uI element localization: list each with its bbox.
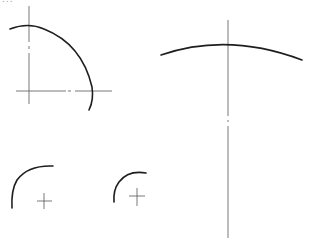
quarter-arc — [10, 26, 93, 111]
shallow-arc — [161, 45, 302, 60]
drawing-canvas — [0, 0, 319, 240]
small-arc-left — [12, 166, 53, 208]
small-arc-right — [114, 172, 146, 202]
figure-large-arc — [161, 20, 302, 238]
figure-small-arc-right — [114, 172, 146, 206]
figure-quarter-arc — [10, 6, 112, 110]
figure-small-arc-left — [12, 166, 53, 209]
